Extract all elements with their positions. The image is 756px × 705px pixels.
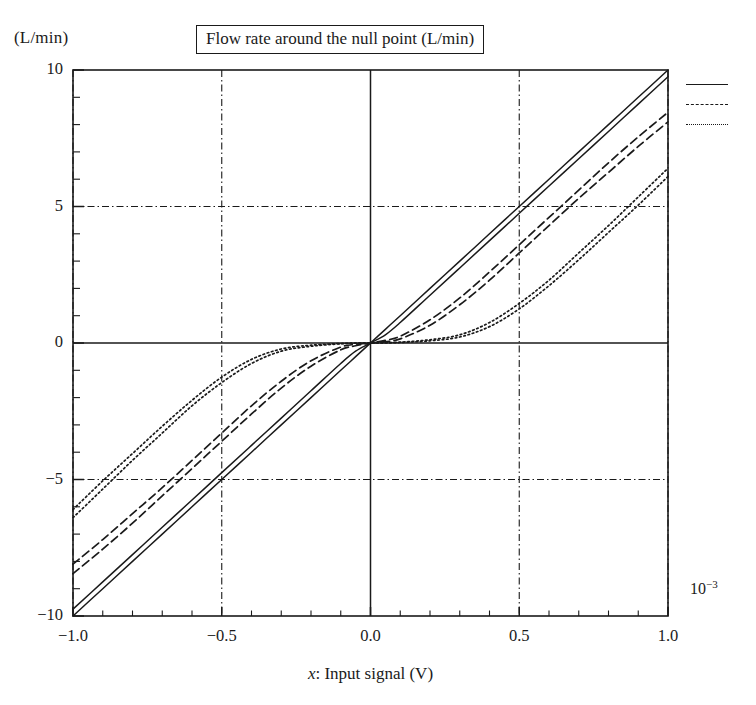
plot-canvas [0,0,756,705]
legend-entry-dashed [686,96,746,116]
y-tick-label: −10 [15,605,63,625]
y-axis-unit-label: (L/min) [14,28,68,48]
y-scale-exponent-label: 10−3 [690,578,718,598]
legend [686,76,746,136]
y-tick-label: −5 [15,469,63,489]
x-tick-label: 0.0 [341,626,401,646]
exponent-base: 10 [690,580,706,597]
legend-entry-dotted [686,116,746,136]
y-tick-label: 5 [15,196,63,216]
legend-line-solid-icon [686,84,728,85]
legend-entry-solid [686,76,746,96]
x-axis-title-text: : Input signal (V) [315,664,433,683]
flow-rate-chart-figure: (L/min) Flow rate around the null point … [0,0,756,705]
legend-line-dotted-icon [686,124,728,125]
x-tick-label: 1.0 [638,626,698,646]
legend-line-dashed-icon [686,104,728,105]
exponent-power: −3 [706,578,718,590]
x-axis-title: x: Input signal (V) [0,664,741,684]
x-tick-label: 0.5 [489,626,549,646]
x-tick-label: −0.5 [192,626,252,646]
x-tick-label: −1.0 [43,626,103,646]
y-tick-label: 0 [15,332,63,352]
chart-title: Flow rate around the null point (L/min) [196,25,484,54]
y-tick-label: 10 [15,59,63,79]
